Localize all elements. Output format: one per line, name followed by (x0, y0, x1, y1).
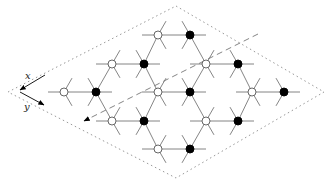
x-axis-arrow (20, 75, 45, 90)
filled-node (234, 117, 242, 125)
open-node (154, 88, 162, 96)
lattice-edges (48, 21, 300, 163)
open-node (108, 60, 116, 68)
filled-node (140, 117, 148, 125)
coordinate-axes: x y (20, 70, 45, 112)
open-node (248, 88, 256, 96)
open-node (60, 88, 68, 96)
filled-node (186, 145, 194, 153)
lattice-edge (190, 121, 206, 149)
x-axis-label: x (25, 70, 31, 81)
lattice-edge (190, 64, 206, 92)
open-node (202, 117, 210, 125)
lattice-edge (144, 35, 158, 64)
lattice-edge (144, 64, 158, 92)
filled-node (234, 60, 242, 68)
lattice-edge (96, 64, 112, 92)
dashed-arrow-line (84, 34, 258, 121)
open-node (202, 60, 210, 68)
lattice-edge (238, 92, 252, 121)
filled-node (92, 88, 100, 96)
filled-node (186, 31, 194, 39)
filled-node (140, 60, 148, 68)
y-axis-label: y (23, 101, 30, 112)
open-node (108, 117, 116, 125)
open-node (154, 145, 162, 153)
lattice-edge (144, 121, 158, 149)
open-node (154, 31, 162, 39)
lattice-edge (190, 92, 206, 121)
honeycomb-diagram: x y (0, 0, 336, 183)
lattice-edge (190, 35, 206, 64)
dashed-direction-line (84, 34, 258, 121)
lattice-edge (96, 92, 112, 121)
filled-node (280, 88, 288, 96)
filled-node (186, 88, 194, 96)
lattice-edge (238, 64, 252, 92)
lattice-edge (144, 92, 158, 121)
